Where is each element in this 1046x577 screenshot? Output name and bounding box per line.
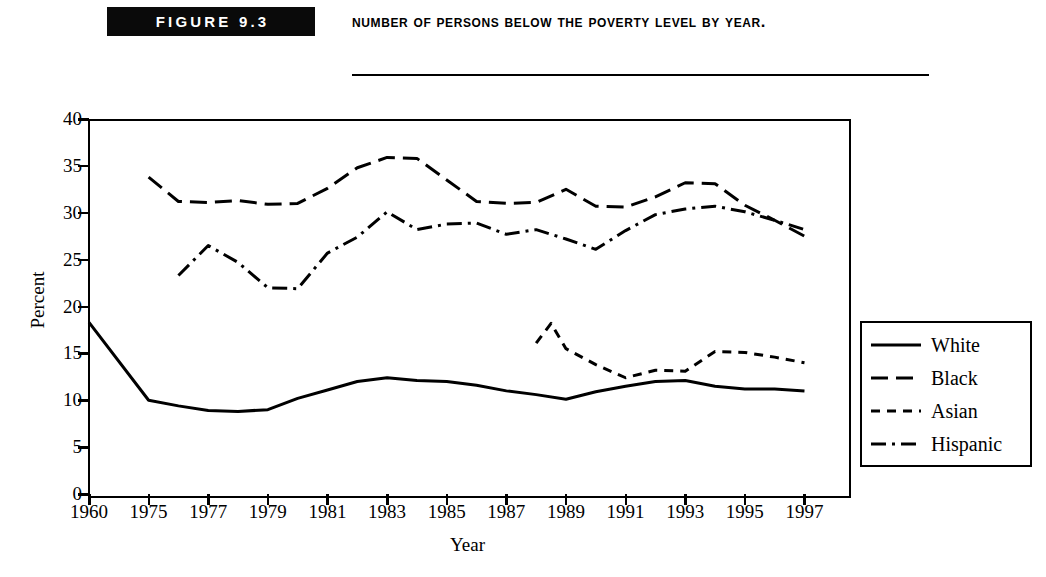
x-tick-mark (326, 494, 329, 505)
legend-item-asian[interactable]: Asian (870, 395, 1028, 427)
legend-label: White (931, 335, 980, 355)
legend-swatch-dashed-long-icon (870, 371, 922, 385)
y-tick-label: 35 (42, 156, 82, 175)
y-tick-label: 40 (42, 109, 82, 128)
legend-item-black[interactable]: Black (870, 362, 1028, 394)
chart-legend: WhiteBlackAsianHispanic (860, 321, 1032, 467)
x-tick-mark (565, 494, 568, 505)
figure-number-badge: FIGURE 9.3 (107, 7, 315, 36)
y-tick-label: 10 (42, 390, 82, 409)
x-tick-mark (446, 494, 449, 505)
legend-label: Hispanic (931, 434, 1002, 454)
y-axis-title: Percent (27, 240, 49, 360)
x-tick-mark (88, 494, 91, 505)
series-line-asian (536, 323, 804, 377)
y-tick-mark (78, 118, 89, 121)
x-tick-mark (386, 494, 389, 505)
x-tick-mark (505, 494, 508, 505)
x-axis-title: Year (0, 534, 935, 556)
x-tick-mark (148, 494, 151, 505)
y-tick-mark (78, 259, 89, 262)
y-tick-mark (78, 352, 89, 355)
x-tick-mark (684, 494, 687, 505)
y-tick-mark (78, 165, 89, 168)
y-tick-mark (78, 399, 89, 402)
y-tick-label: 30 (42, 203, 82, 222)
x-tick-mark (803, 494, 806, 505)
legend-item-white[interactable]: White (870, 329, 1028, 361)
legend-item-hispanic[interactable]: Hispanic (870, 428, 1028, 460)
header-divider (352, 74, 929, 76)
chart-container: 0510152025303540 Percent Year WhiteBlack… (0, 84, 1046, 577)
y-tick-mark (78, 446, 89, 449)
x-tick-mark (267, 494, 270, 505)
x-tick-mark (207, 494, 210, 505)
y-tick-mark (78, 306, 89, 309)
series-line-hispanic (178, 206, 804, 289)
x-tick-mark (744, 494, 747, 505)
x-tick-mark (625, 494, 628, 505)
y-tick-label: 5 (42, 437, 82, 456)
figure-header: FIGURE 9.3 Number of Persons Below the P… (0, 0, 1046, 84)
y-tick-mark (78, 212, 89, 215)
legend-swatch-dash-dot-icon (870, 437, 922, 451)
figure-title: Number of Persons Below the Poverty Leve… (352, 8, 912, 34)
legend-label: Black (931, 368, 978, 388)
legend-label: Asian (931, 401, 978, 421)
legend-swatch-dashed-short-icon (870, 404, 922, 418)
plot-series-svg (88, 119, 847, 494)
legend-swatch-solid-icon (870, 338, 922, 352)
series-line-white (89, 322, 804, 411)
